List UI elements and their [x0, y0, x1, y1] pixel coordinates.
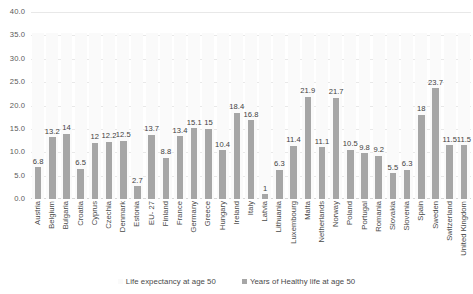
- x-axis-tick: Slovenia: [400, 201, 414, 263]
- bar-group[interactable]: 10.4: [216, 12, 230, 199]
- bar-healthy-life[interactable]: [148, 135, 155, 199]
- legend-item[interactable]: Life expectancy at age 50: [118, 278, 216, 286]
- bar-chart: 0.05.010.015.020.025.030.035.040.0 6.813…: [0, 0, 473, 294]
- bar-group[interactable]: 15: [201, 12, 215, 199]
- bar-healthy-life[interactable]: [49, 137, 56, 199]
- bar-group[interactable]: 13.2: [45, 12, 59, 199]
- x-axis-tick-label: France: [176, 201, 184, 225]
- bar-healthy-life[interactable]: [77, 169, 84, 199]
- bar-healthy-life[interactable]: [92, 143, 99, 199]
- bar-value-label: 9.8: [359, 144, 370, 152]
- bar-group[interactable]: 6.3: [400, 12, 414, 199]
- bar-healthy-life[interactable]: [404, 170, 411, 199]
- bar-group[interactable]: 18.4: [230, 12, 244, 199]
- bar-group[interactable]: 13.4: [173, 12, 187, 199]
- bar-healthy-life[interactable]: [134, 186, 141, 199]
- bar-value-label: 11.5: [442, 136, 456, 144]
- bar-healthy-life[interactable]: [432, 88, 439, 199]
- bar-healthy-life[interactable]: [290, 146, 297, 199]
- x-axis-tick-label: Czechia: [105, 201, 113, 229]
- bar-healthy-life[interactable]: [333, 98, 340, 199]
- bar-group[interactable]: 5.5: [386, 12, 400, 199]
- x-axis-tick: Sweden: [428, 201, 442, 263]
- bar-healthy-life[interactable]: [219, 150, 226, 199]
- bar-group[interactable]: 1: [258, 12, 272, 199]
- bar-group[interactable]: 9.2: [372, 12, 386, 199]
- x-axis-tick-label: Croatia: [77, 201, 85, 226]
- bar-group[interactable]: 6.3: [272, 12, 286, 199]
- bar-healthy-life[interactable]: [205, 129, 212, 199]
- bar-group[interactable]: 18: [414, 12, 428, 199]
- x-axis-tick: France: [173, 201, 187, 263]
- x-axis-tick-label: Luxembourg: [290, 201, 298, 244]
- bar-group[interactable]: 21.7: [329, 12, 343, 199]
- x-axis-tick: Netherlands: [315, 201, 329, 263]
- bar-life-expectancy[interactable]: [259, 33, 271, 199]
- x-axis-tick-label: Slovakia: [389, 201, 397, 230]
- x-axis-tick: Bulgaria: [59, 201, 73, 263]
- bar-group[interactable]: 12.5: [116, 12, 130, 199]
- bar-group[interactable]: 21.9: [301, 12, 315, 199]
- bar-group[interactable]: 13.7: [145, 12, 159, 199]
- bar-healthy-life[interactable]: [461, 145, 468, 199]
- bar-healthy-life[interactable]: [63, 134, 70, 199]
- bar-group[interactable]: 16.8: [244, 12, 258, 199]
- bar-healthy-life[interactable]: [446, 145, 453, 199]
- bar-healthy-life[interactable]: [248, 120, 255, 199]
- bar-healthy-life[interactable]: [177, 136, 184, 199]
- x-axis-tick: Italy: [244, 201, 258, 263]
- x-axis-tick: Poland: [343, 201, 357, 263]
- x-axis-tick-label: Latvia: [261, 201, 269, 222]
- bar-healthy-life[interactable]: [35, 167, 42, 199]
- x-axis-tick: Latvia: [258, 201, 272, 263]
- bar-group[interactable]: 23.7: [428, 12, 442, 199]
- x-axis-tick: Lithuania: [272, 201, 286, 263]
- x-axis-tick: Finland: [159, 201, 173, 263]
- bar-healthy-life[interactable]: [234, 113, 241, 199]
- bar-group[interactable]: 15.1: [187, 12, 201, 199]
- x-axis-tick: Estonia: [130, 201, 144, 263]
- bar-group[interactable]: 14: [59, 12, 73, 199]
- bar-group[interactable]: 8.8: [159, 12, 173, 199]
- bar-group[interactable]: 11.4: [286, 12, 300, 199]
- bar-healthy-life[interactable]: [106, 142, 113, 199]
- bar-healthy-life[interactable]: [361, 153, 368, 199]
- legend-swatch-icon: [118, 279, 123, 284]
- bar-healthy-life[interactable]: [191, 128, 198, 199]
- bar-value-label: 13.2: [45, 128, 60, 136]
- bar-group[interactable]: 9.8: [357, 12, 371, 199]
- x-axis-tick-label: Cyprus: [91, 201, 99, 225]
- x-axis-tick-label: Estonia: [134, 201, 142, 227]
- bar-healthy-life[interactable]: [390, 173, 397, 199]
- bar-group[interactable]: 2.7: [130, 12, 144, 199]
- bar-group[interactable]: 11.1: [315, 12, 329, 199]
- x-axis-tick: Slovakia: [386, 201, 400, 263]
- x-axis-tick-label: Lithuania: [276, 201, 284, 232]
- bar-group[interactable]: 10.5: [343, 12, 357, 199]
- bar-healthy-life[interactable]: [276, 170, 283, 199]
- bar-group[interactable]: 12.2: [102, 12, 116, 199]
- bar-group[interactable]: 12: [88, 12, 102, 199]
- bar-group[interactable]: 11.5: [457, 12, 471, 199]
- bar-healthy-life[interactable]: [375, 156, 382, 199]
- x-axis-tick: Switzerland: [443, 201, 457, 263]
- bar-value-label: 12.5: [116, 131, 131, 139]
- bar-healthy-life[interactable]: [120, 141, 127, 199]
- bar-healthy-life[interactable]: [347, 150, 354, 199]
- bar-value-label: 15.1: [187, 119, 202, 127]
- bar-value-label: 6.3: [274, 160, 285, 168]
- bar-healthy-life[interactable]: [163, 158, 170, 199]
- bar-life-expectancy[interactable]: [131, 33, 143, 199]
- bar-healthy-life[interactable]: [305, 97, 312, 199]
- bar-group[interactable]: 6.5: [74, 12, 88, 199]
- x-axis-tick-label: Italy: [247, 201, 255, 215]
- legend-item[interactable]: Years of Healthy life at age 50: [242, 278, 355, 286]
- bar-value-label: 18.4: [229, 103, 244, 111]
- x-axis-tick: Greece: [201, 201, 215, 263]
- bar-value-label: 2.7: [132, 177, 143, 185]
- bar-group[interactable]: 6.8: [31, 12, 45, 199]
- bar-group[interactable]: 11.5: [443, 12, 457, 199]
- bar-healthy-life[interactable]: [262, 194, 269, 199]
- bar-healthy-life[interactable]: [319, 147, 326, 199]
- bar-healthy-life[interactable]: [418, 115, 425, 199]
